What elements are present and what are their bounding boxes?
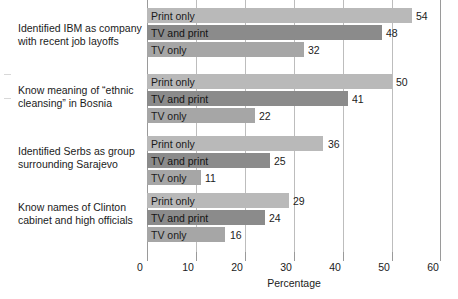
category-label-2: Know meaning of “ethnic cleansing” in Bo… (18, 84, 144, 109)
bar-value-label: 29 (293, 195, 305, 206)
bar-value-label: 32 (308, 44, 320, 55)
bar-tvprint-3 (147, 153, 270, 168)
category-label-line: Know meaning of “ethnic (18, 84, 144, 97)
bar-value-label: 25 (274, 155, 286, 166)
bar-value-label: 50 (396, 76, 408, 87)
category-label-line: cleansing” in Bosnia (18, 97, 144, 110)
x-tick-label-30: 30 (280, 261, 292, 273)
category-label-1: Identified IBM as company with recent jo… (18, 22, 144, 47)
category-label-line: Identified IBM as company (18, 22, 144, 35)
bar-print-2 (147, 74, 392, 89)
category-label-line: with recent job layoffs (18, 35, 144, 48)
bar-print-3 (147, 136, 323, 151)
bar-value-label: 16 (230, 229, 242, 240)
bar-value-label: 36 (328, 138, 340, 149)
category-label-4: Know names of Clinton cabinet and high o… (18, 201, 144, 226)
bar-tv-3 (147, 170, 201, 185)
x-axis-title: Percentage (147, 277, 441, 289)
x-tick-mark (440, 252, 441, 261)
plot-area: Print only 54 TV and print 48 TV only 32… (147, 0, 441, 252)
bar-tv-4 (147, 227, 225, 242)
category-label-line: Identified Serbs as group (18, 145, 144, 158)
bar-value-label: 54 (416, 10, 428, 21)
x-tick-label-40: 40 (329, 261, 341, 273)
category-label-3: Identified Serbs as group surrounding Sa… (18, 145, 144, 170)
bar-tvprint-1 (147, 25, 382, 40)
bar-tvprint-2 (147, 91, 348, 106)
x-tick-mark (147, 252, 148, 261)
x-tick-mark (196, 252, 197, 261)
bar-value-label: 24 (269, 212, 281, 223)
x-tick-label-10: 10 (182, 261, 194, 273)
bar-value-label: 22 (259, 110, 271, 121)
bar-tvprint-4 (147, 210, 265, 225)
bar-tv-1 (147, 42, 304, 57)
bar-print-4 (147, 193, 289, 208)
x-tick-label-50: 50 (378, 261, 390, 273)
x-tick-label-60: 60 (427, 261, 439, 273)
x-tick-mark (294, 252, 295, 261)
x-axis: 0 10 20 30 40 50 60 (147, 252, 441, 276)
bar-print-1 (147, 8, 412, 23)
scan-artifact (4, 74, 11, 75)
bar-value-label: 11 (205, 172, 216, 183)
x-tick-mark (392, 252, 393, 261)
bar-chart-figure: Identified IBM as company with recent jo… (0, 0, 458, 299)
x-tick-mark (343, 252, 344, 261)
bar-value-label: 41 (352, 93, 364, 104)
category-label-line: surrounding Sarajevo (18, 158, 144, 171)
x-tick-label-20: 20 (231, 261, 243, 273)
x-tick-label-0: 0 (137, 261, 143, 273)
bar-value-label: 48 (386, 27, 398, 38)
category-label-line: Know names of Clinton (18, 201, 144, 214)
bar-tv-2 (147, 108, 255, 123)
scan-artifact (4, 98, 11, 99)
category-label-line: cabinet and high officials (18, 214, 144, 227)
gridline-60 (440, 0, 441, 252)
x-tick-mark (245, 252, 246, 261)
